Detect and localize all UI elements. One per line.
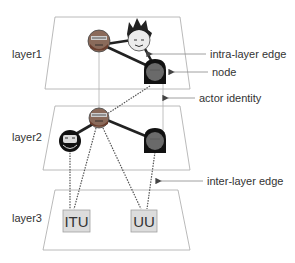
layer3-node-uu: UU [131, 210, 157, 232]
node-label: node [212, 66, 236, 78]
layer3-label: layer3 [12, 212, 42, 224]
layer2-node-dark-hooded-avatar [144, 128, 166, 153]
inter-layer-edge-label: inter-layer edge [207, 175, 283, 187]
itu-label: ITU [64, 213, 88, 230]
intra-layer-edge-label: intra-layer edge [210, 48, 286, 60]
layer1-node-bearded-glasses-avatar [88, 30, 110, 52]
layer1-node-dark-hooded-avatar [144, 59, 166, 84]
actor-identity-label: actor identity [199, 92, 262, 104]
multilayer-network-diagram: ITU UU layer1 layer2 layer3 intra-layer … [0, 0, 295, 263]
uu-label: UU [133, 213, 155, 230]
layer2-node-bearded-glasses-avatar [89, 108, 109, 128]
layer2-node-dark-bearded-avatar [59, 130, 81, 152]
layer3-node-itu: ITU [63, 210, 90, 232]
layer1-label: layer1 [12, 48, 42, 60]
layer2-label: layer2 [12, 131, 42, 143]
